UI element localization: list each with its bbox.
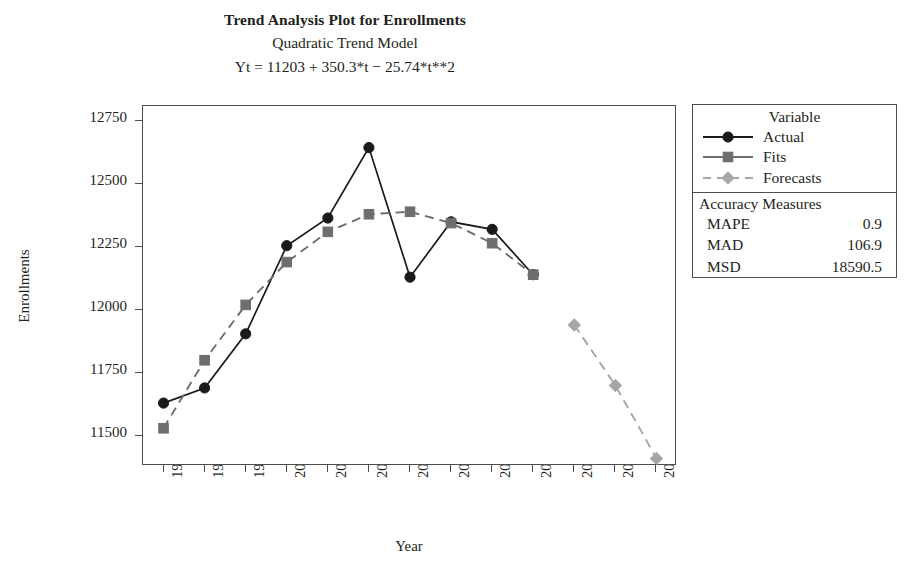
y-tick-label-text: 11500 — [90, 424, 127, 441]
data-point-square — [723, 153, 733, 163]
x-tick — [409, 465, 410, 472]
y-tick — [135, 246, 142, 247]
y-tick-label-text: 12250 — [90, 235, 128, 252]
data-point-diamond — [568, 319, 580, 331]
x-tick — [614, 465, 615, 472]
chart-equation: Yt = 11203 + 350.3*t − 25.74*t**2 — [0, 55, 690, 79]
data-point-circle — [723, 132, 733, 142]
data-point-circle — [323, 213, 333, 223]
x-tick — [163, 465, 164, 472]
legend-item-label: Actual — [763, 128, 804, 146]
y-tick-label-text: 12500 — [90, 172, 128, 189]
accuracy-metric-name: MSD — [707, 257, 741, 276]
legend-entries: ActualFitsForecasts — [693, 127, 896, 192]
chart-title: Trend Analysis Plot for Enrollments — [0, 8, 690, 31]
y-tick — [135, 120, 142, 121]
data-point-circle — [282, 241, 292, 251]
series-line-fits — [164, 212, 534, 429]
data-point-square — [282, 257, 292, 267]
legend-panel: Variable ActualFitsForecasts Accuracy Me… — [692, 104, 897, 278]
data-point-square — [241, 300, 251, 310]
chart-subtitle: Quadratic Trend Model — [0, 31, 690, 55]
legend-key-circle-icon — [701, 129, 755, 145]
data-point-square — [159, 423, 169, 433]
x-axis-title: Year — [142, 538, 676, 555]
legend-title: Variable — [693, 105, 896, 127]
series-line-actual — [164, 148, 534, 404]
y-axis-title-text: Enrollments — [16, 196, 33, 376]
accuracy-metric-name: MAPE — [707, 214, 750, 233]
x-tick — [655, 465, 656, 472]
data-point-diamond — [722, 172, 734, 184]
data-point-circle — [487, 224, 497, 234]
data-point-square — [323, 227, 333, 237]
accuracy-row-mape: MAPE0.9 — [693, 213, 896, 234]
y-tick — [135, 183, 142, 184]
plot-svg — [143, 106, 677, 466]
y-tick-label-text: 12000 — [90, 298, 128, 315]
plot-area — [142, 105, 676, 465]
y-tick — [135, 372, 142, 373]
legend-key-diamond-icon — [701, 170, 755, 186]
y-axis-title: Enrollments — [16, 16, 33, 196]
accuracy-rows: MAPE0.9MAD106.9MSD18590.5 — [693, 213, 896, 277]
data-point-circle — [364, 142, 374, 152]
accuracy-row-msd: MSD18590.5 — [693, 256, 896, 277]
accuracy-title: Accuracy Measures — [693, 193, 896, 213]
accuracy-row-mad: MAD106.9 — [693, 234, 896, 255]
data-point-circle — [200, 383, 210, 393]
data-point-circle — [241, 329, 251, 339]
chart-title-block: Trend Analysis Plot for Enrollments Quad… — [0, 8, 690, 79]
accuracy-metric-name: MAD — [707, 235, 743, 254]
x-tick — [450, 465, 451, 472]
y-tick-label-text: 11750 — [90, 361, 127, 378]
data-point-square — [200, 355, 210, 365]
y-tick — [135, 435, 142, 436]
accuracy-metric-value: 0.9 — [863, 214, 882, 233]
data-point-diamond — [650, 452, 662, 464]
x-tick — [573, 465, 574, 472]
legend-item-forecasts: Forecasts — [693, 168, 896, 188]
legend-item-label: Forecasts — [763, 169, 822, 187]
x-tick — [368, 465, 369, 472]
data-point-square — [528, 270, 538, 280]
data-point-circle — [158, 398, 168, 408]
data-point-diamond — [609, 379, 621, 391]
accuracy-metric-value: 18590.5 — [832, 257, 882, 276]
data-point-square — [405, 207, 415, 217]
y-tick-label-text: 12750 — [90, 109, 128, 126]
x-tick — [204, 465, 205, 472]
data-point-square — [487, 238, 497, 248]
data-point-square — [446, 218, 456, 228]
legend-item-actual: Actual — [693, 127, 896, 147]
legend-item-fits: Fits — [693, 147, 896, 167]
y-tick — [135, 309, 142, 310]
accuracy-metric-value: 106.9 — [847, 235, 882, 254]
x-tick — [491, 465, 492, 472]
legend-divider: Accuracy Measures MAPE0.9MAD106.9MSD1859… — [693, 192, 896, 277]
data-point-circle — [405, 272, 415, 282]
x-tick — [327, 465, 328, 472]
data-point-square — [364, 209, 374, 219]
legend-item-label: Fits — [763, 148, 786, 166]
chart-canvas: Trend Analysis Plot for Enrollments Quad… — [0, 0, 912, 582]
x-tick — [245, 465, 246, 472]
x-tick — [532, 465, 533, 472]
legend-key-square-icon — [701, 149, 755, 165]
x-tick — [286, 465, 287, 472]
